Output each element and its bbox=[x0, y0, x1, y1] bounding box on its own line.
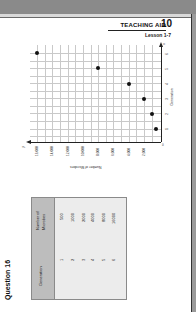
y-axis bbox=[161, 45, 162, 142]
y-tick-label: 1 bbox=[165, 128, 169, 130]
grid-line bbox=[30, 129, 161, 130]
data-point bbox=[142, 97, 146, 101]
grid-line bbox=[98, 45, 99, 142]
grid-line bbox=[30, 91, 161, 92]
arrow-left-icon bbox=[26, 140, 31, 144]
column-header-microbes-line1: Number of bbox=[35, 211, 40, 230]
grid-line bbox=[60, 45, 61, 142]
grid-line bbox=[121, 45, 122, 142]
data-point bbox=[150, 112, 154, 116]
cell-microbes: 2000 bbox=[81, 213, 86, 222]
grid-line bbox=[75, 45, 76, 142]
y-tick-label: 5 bbox=[165, 68, 169, 70]
cell-generation: 1 bbox=[59, 259, 64, 261]
axis-letter: x bbox=[162, 43, 166, 45]
x-axis bbox=[30, 142, 161, 143]
grid-line bbox=[152, 45, 153, 142]
cell-generation: 4 bbox=[90, 259, 95, 261]
question-title: Question 16 bbox=[4, 260, 11, 300]
grid-line bbox=[30, 136, 161, 137]
scan-top-band bbox=[0, 0, 196, 14]
grid-line bbox=[45, 45, 46, 142]
lesson-label: Lesson 1-7 bbox=[145, 32, 171, 38]
grid-line bbox=[37, 45, 38, 142]
x-tick-label: 8,000 bbox=[96, 148, 100, 156]
y-tick-label: 2 bbox=[165, 113, 169, 115]
grid-line bbox=[83, 45, 84, 142]
data-point bbox=[154, 127, 158, 131]
data-point bbox=[96, 66, 100, 70]
cell-generation: 6 bbox=[111, 259, 116, 261]
x-tick-label: 10,000 bbox=[81, 146, 85, 156]
grid-line bbox=[30, 53, 161, 54]
x-tick-label: 16,000 bbox=[35, 146, 39, 156]
x-tick-label: 2,000 bbox=[142, 148, 146, 156]
cell-generation: 3 bbox=[81, 259, 86, 261]
cell-generation: 2 bbox=[70, 259, 75, 261]
grid-line bbox=[30, 76, 161, 77]
cell-microbes: 8000 bbox=[101, 213, 106, 222]
grid-line bbox=[113, 45, 114, 142]
grid-line bbox=[68, 45, 69, 142]
data-point bbox=[127, 82, 131, 86]
header-rule bbox=[108, 30, 166, 31]
grid-line bbox=[144, 45, 145, 142]
column-header-generation: Generation bbox=[38, 266, 43, 286]
x-tick-label: 14,000 bbox=[50, 146, 54, 156]
grid-line bbox=[30, 61, 161, 62]
grid-line bbox=[91, 45, 92, 142]
grid-line bbox=[30, 121, 161, 122]
grid-line bbox=[30, 113, 161, 114]
cell-generation: 5 bbox=[101, 259, 106, 261]
grid-line bbox=[136, 45, 137, 142]
y-tick-label: 4 bbox=[165, 83, 169, 85]
y-tick-label: 6 bbox=[165, 53, 169, 55]
x-tick-label: 4,000 bbox=[127, 148, 131, 156]
page-right-margin bbox=[191, 14, 196, 312]
cell-microbes: 4000 bbox=[90, 213, 95, 222]
cell-microbes: 16000 bbox=[111, 213, 116, 224]
y-axis-label: Generation bbox=[170, 88, 174, 105]
column-header-microbes-line2: Microbes bbox=[41, 214, 46, 230]
cell-microbes: 1000 bbox=[70, 213, 75, 222]
x-tick-label: 12,000 bbox=[66, 146, 70, 156]
origin-label: 0 bbox=[162, 143, 164, 147]
cell-microbes: 500 bbox=[59, 213, 64, 220]
x-axis-label: Number of Microbes bbox=[70, 165, 102, 169]
teaching-aid-label: TEACHING AID bbox=[120, 22, 166, 28]
axis-letter: y bbox=[21, 146, 25, 148]
y-tick-label: 3 bbox=[165, 98, 169, 100]
grid-line bbox=[129, 45, 130, 142]
data-table: Generation Number of Microbes 1 2 3 4 5 … bbox=[31, 197, 127, 300]
grid-line bbox=[52, 45, 53, 142]
teaching-aid-number: 10 bbox=[161, 18, 172, 29]
data-point bbox=[35, 51, 39, 55]
grid-line bbox=[30, 106, 161, 107]
grid-line bbox=[106, 45, 107, 142]
grid-line bbox=[30, 83, 161, 84]
x-tick-label: 6,000 bbox=[111, 148, 115, 156]
